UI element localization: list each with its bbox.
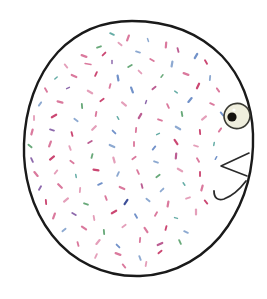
speckle	[94, 170, 99, 171]
speckle	[76, 175, 77, 178]
speckle	[84, 203, 88, 204]
speckle	[154, 161, 158, 162]
speckle	[201, 186, 202, 191]
speckle	[94, 216, 95, 220]
speckle	[69, 146, 70, 150]
speckle	[175, 218, 178, 219]
speckle	[194, 145, 198, 146]
speckle	[172, 62, 173, 67]
speckle	[147, 39, 148, 42]
speckle	[182, 112, 183, 116]
speckle	[50, 129, 54, 130]
speckle	[214, 143, 215, 146]
speckle	[97, 46, 101, 47]
speckle	[71, 132, 72, 136]
eye-pupil	[227, 112, 236, 121]
speckle	[141, 184, 142, 188]
speckle	[168, 202, 169, 207]
speckle	[77, 242, 78, 246]
speckle	[118, 76, 119, 81]
speckle	[85, 63, 91, 64]
speckle	[158, 119, 162, 120]
drawing-canvas: A large hand-drawn rounded oval body fil…	[0, 0, 267, 299]
speckle	[186, 197, 190, 198]
speckle	[109, 84, 110, 88]
speckle	[165, 226, 166, 230]
speckle	[145, 101, 146, 104]
speckle	[91, 154, 92, 158]
speckle	[31, 130, 32, 135]
bird-illustration	[0, 0, 267, 299]
speckle	[136, 51, 140, 52]
eye-highlight	[232, 108, 235, 111]
speckle	[113, 158, 114, 163]
speckle	[146, 262, 147, 266]
speckle	[96, 112, 97, 116]
speckle	[58, 101, 63, 102]
speckle	[139, 256, 140, 260]
speckle	[105, 196, 106, 200]
speckle	[177, 48, 178, 52]
